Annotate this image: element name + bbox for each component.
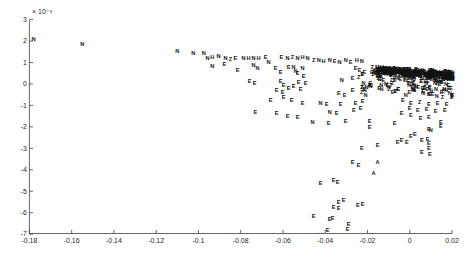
svg-text:E: E (296, 70, 300, 76)
svg-text:E: E (275, 110, 279, 116)
svg-text:H: H (210, 54, 214, 60)
svg-text:E: E (419, 115, 423, 121)
svg-text:H: H (246, 55, 250, 61)
svg-text:-0.1: -0.1 (192, 237, 204, 244)
svg-text:-0.02: -0.02 (359, 237, 375, 244)
svg-text:3: 3 (23, 16, 27, 23)
svg-text:0: 0 (408, 237, 412, 244)
svg-text:0.02: 0.02 (445, 237, 459, 244)
svg-text:E: E (359, 105, 363, 111)
svg-text:E: E (416, 107, 420, 113)
svg-text:E: E (420, 149, 424, 155)
svg-text:-5: -5 (21, 188, 27, 195)
svg-text:H: H (322, 58, 326, 64)
svg-text:-4: -4 (21, 166, 27, 173)
svg-text:E: E (409, 133, 413, 139)
svg-text:0: 0 (23, 80, 27, 87)
svg-text:E: E (274, 65, 278, 71)
svg-text:E: E (351, 75, 355, 81)
svg-text:N: N (360, 58, 364, 64)
svg-text:N: N (435, 93, 439, 99)
svg-text:E: E (443, 107, 447, 113)
svg-text:Z: Z (419, 78, 423, 84)
svg-text:E: E (351, 87, 355, 93)
svg-text:E: E (331, 215, 335, 221)
svg-text:-1: -1 (21, 102, 27, 109)
svg-text:-0.08: -0.08 (233, 237, 249, 244)
svg-text:E: E (343, 92, 347, 98)
svg-text:E: E (440, 89, 444, 95)
svg-text:Z: Z (418, 99, 422, 105)
axes: 3210-1-2-3-4-5-6-7-0.18-0.16-0.14-0.12-0… (21, 16, 459, 244)
svg-text:E: E (362, 69, 366, 75)
svg-text:E: E (301, 100, 305, 106)
svg-text:Z: Z (423, 84, 427, 90)
svg-text:E: E (282, 82, 286, 88)
svg-text:N: N (32, 36, 36, 42)
svg-text:N: N (241, 55, 245, 61)
svg-text:E: E (319, 180, 323, 186)
svg-text:E: E (377, 85, 381, 91)
svg-text:Z: Z (357, 74, 361, 80)
svg-text:N: N (328, 109, 332, 115)
svg-text:Z: Z (362, 86, 366, 92)
svg-text:-6: -6 (21, 209, 27, 216)
svg-text:N: N (317, 57, 321, 63)
svg-text:N: N (429, 127, 433, 133)
svg-text:N: N (216, 53, 220, 59)
svg-text:E: E (420, 137, 424, 143)
svg-text:N: N (376, 71, 380, 77)
svg-text:Z: Z (390, 71, 394, 77)
svg-text:N: N (340, 77, 344, 83)
svg-text:N: N (301, 65, 305, 71)
svg-text:N: N (175, 48, 179, 54)
svg-text:N: N (434, 86, 438, 92)
svg-text:E: E (439, 123, 443, 129)
svg-text:E: E (393, 120, 397, 126)
svg-text:E: E (429, 74, 433, 80)
svg-text:E: E (327, 120, 331, 126)
svg-text:E: E (302, 73, 306, 79)
svg-text:E: E (357, 162, 361, 168)
svg-text:A: A (372, 170, 376, 176)
svg-text:E: E (337, 199, 341, 205)
svg-text:E: E (352, 107, 356, 113)
svg-text:-2: -2 (21, 123, 27, 130)
svg-text:E: E (296, 114, 300, 120)
svg-text:N: N (80, 41, 84, 47)
svg-text:E: E (335, 110, 339, 116)
svg-text:N: N (361, 80, 365, 86)
svg-text:E: E (361, 201, 365, 207)
svg-text:N: N (296, 55, 300, 61)
svg-text:E: E (304, 80, 308, 86)
svg-text:E: E (282, 94, 286, 100)
svg-text:-0.18: -0.18 (21, 237, 37, 244)
svg-text:H: H (355, 57, 359, 63)
svg-text:E: E (434, 108, 438, 114)
svg-text:N: N (448, 90, 452, 96)
svg-text:E: E (409, 112, 413, 118)
svg-text:N: N (206, 55, 210, 61)
svg-text:Z: Z (312, 57, 316, 63)
svg-text:Z: Z (229, 56, 233, 62)
svg-text:E: E (325, 101, 329, 107)
svg-text:E: E (253, 80, 257, 86)
svg-text:N: N (344, 57, 348, 63)
svg-text:E: E (391, 89, 395, 95)
svg-text:E: E (344, 118, 348, 124)
svg-text:E: E (347, 221, 351, 227)
svg-text:Z: Z (291, 54, 295, 60)
svg-text:1: 1 (23, 59, 27, 66)
svg-text:N: N (311, 119, 315, 125)
svg-text:E: E (376, 142, 380, 148)
svg-text:E: E (342, 197, 346, 203)
svg-text:N: N (441, 76, 445, 82)
svg-text:E: E (346, 226, 350, 232)
svg-text:E: E (297, 79, 301, 85)
svg-text:E: E (286, 113, 290, 119)
svg-text:N: N (305, 55, 309, 61)
svg-text:-0.16: -0.16 (64, 237, 80, 244)
svg-text:E: E (401, 97, 405, 103)
svg-text:Z: Z (371, 71, 375, 77)
svg-text:E: E (290, 97, 294, 103)
